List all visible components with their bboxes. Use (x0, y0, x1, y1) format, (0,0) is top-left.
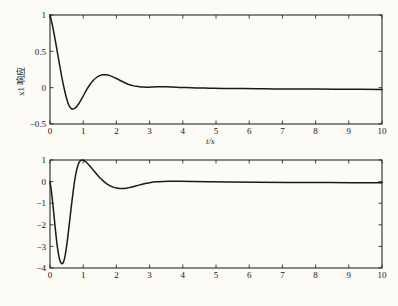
x-tick-label: 5 (214, 270, 219, 280)
x-tick-label: 5 (214, 126, 219, 136)
plot-canvas-x2: 012345678910−4−3−2−101 (0, 152, 398, 306)
x-tick-label: 6 (247, 126, 252, 136)
chart-x2-response: 012345678910−4−3−2−101 x2 响应 t/s (0, 152, 398, 306)
y-axis-label-x1: x1 响应 (14, 67, 27, 96)
data-curve-x2 (50, 160, 382, 264)
x-tick-label: 1 (81, 126, 86, 136)
x-axis-label-x1: t/s (206, 136, 215, 146)
y-tick-label: 0 (42, 83, 47, 93)
y-tick-label: −1 (36, 198, 46, 208)
x-tick-label: 10 (378, 270, 388, 280)
y-tick-label: −0.5 (30, 119, 47, 129)
y-tick-label: −3 (36, 242, 46, 252)
x-tick-label: 4 (181, 270, 186, 280)
x-tick-label: 8 (313, 126, 318, 136)
x-tick-label: 0 (48, 126, 53, 136)
y-tick-label: −4 (36, 263, 46, 273)
x-tick-label: 8 (313, 270, 318, 280)
x-tick-label: 0 (48, 270, 53, 280)
x-tick-label: 10 (378, 126, 388, 136)
y-tick-label: −2 (36, 220, 46, 230)
x-tick-label: 6 (247, 270, 252, 280)
chart-x1-response: 012345678910−0.500.51 x1 响应 t/s (0, 0, 398, 152)
x-tick-label: 9 (347, 126, 352, 136)
x-tick-label: 2 (114, 126, 119, 136)
plot-canvas-x1: 012345678910−0.500.51 (0, 0, 398, 152)
x-tick-label: 7 (280, 126, 285, 136)
y-tick-label: 1 (42, 155, 47, 165)
y-tick-label: 1 (42, 10, 47, 20)
x-tick-label: 1 (81, 270, 86, 280)
y-tick-label: 0.5 (35, 47, 47, 57)
data-curve-x1 (50, 15, 382, 109)
x-tick-label: 9 (347, 270, 352, 280)
x-tick-label: 4 (181, 126, 186, 136)
figure-page: 012345678910−0.500.51 x1 响应 t/s 01234567… (0, 0, 398, 306)
x-tick-label: 3 (147, 270, 152, 280)
x-tick-label: 3 (147, 126, 152, 136)
y-tick-label: 0 (42, 177, 47, 187)
x-tick-label: 2 (114, 270, 119, 280)
x-tick-label: 7 (280, 270, 285, 280)
